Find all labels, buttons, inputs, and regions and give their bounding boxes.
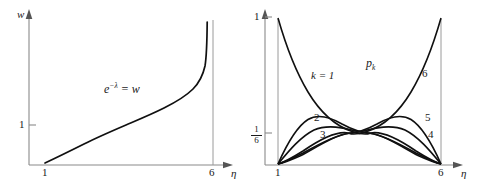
right-panel: [262, 9, 463, 168]
left-xtick-label-6: 6: [209, 167, 215, 178]
right-xtick-label-1: 1: [275, 167, 281, 178]
fraction-denominator: 6: [254, 135, 259, 145]
right-axis-x-label: η: [461, 168, 466, 179]
right-family-label-pk: pk: [366, 57, 375, 72]
right-ytick-label-1: 1: [254, 11, 260, 22]
right-curve-label-4: 4: [428, 129, 434, 140]
left-y-axis-arrowhead: [26, 9, 33, 19]
right-curve-label-6: 6: [422, 68, 428, 79]
right-curve-p4: [278, 127, 441, 164]
left-axis-x-label: η: [231, 168, 236, 179]
fraction-numerator: 1: [254, 124, 259, 134]
left-ytick-label-1: 1: [19, 119, 25, 130]
equation-rest: = w: [121, 82, 140, 96]
pk-subscript: k: [372, 63, 375, 72]
left-xtick-label-1: 1: [42, 167, 48, 178]
figure-svg: [0, 0, 494, 183]
right-curve-label-3: 3: [320, 129, 326, 140]
right-curve-label-k1: k = 1: [311, 70, 334, 81]
right-ytick-label-one-sixth: 1 6: [251, 125, 262, 146]
equation-exponent: −λ: [109, 81, 117, 90]
left-equation-annotation: e−λ = w: [104, 82, 140, 95]
right-curve-p6: [278, 18, 441, 164]
right-curve-label-2: 2: [314, 112, 320, 123]
right-curve-p1: [278, 18, 441, 164]
right-xtick-label-6: 6: [438, 167, 444, 178]
left-axis-y-label: w: [17, 9, 24, 20]
figure-canvas: w 1 1 6 η e−λ = w 1 1 6 1 6 η pk k = 1 2…: [0, 0, 494, 183]
right-curve-label-5: 5: [425, 112, 431, 123]
